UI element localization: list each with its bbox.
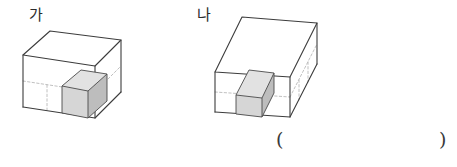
answer-open-paren: ( <box>276 130 283 149</box>
figure-na-label: 나 <box>197 8 211 23</box>
figure-ga <box>23 31 121 118</box>
figure-ga-label: 가 <box>29 8 43 23</box>
figure-na <box>215 17 317 117</box>
figure-ga-cube-front-face <box>62 86 88 118</box>
answer-close-paren: ) <box>439 130 446 149</box>
figure-na-cube-front-face <box>236 95 262 117</box>
figure-canvas: .solid-edge { fill: none; stroke: #3c3c3… <box>0 0 457 167</box>
